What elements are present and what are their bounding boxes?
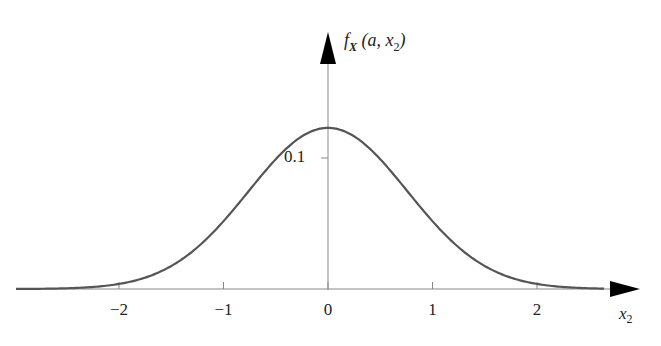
- x-ticks: [119, 282, 537, 289]
- y-tick-label: 0.1: [284, 147, 305, 167]
- y-label-close: ): [400, 30, 406, 50]
- y-axis-arrow-icon: [320, 32, 336, 64]
- x-axis-arrow-icon: [610, 281, 640, 297]
- y-axis-label: fX (a, x2): [344, 30, 406, 55]
- density-curve: [16, 128, 604, 289]
- x-tick-label: 0: [308, 300, 348, 320]
- x-axis-label: x2: [619, 304, 633, 327]
- x-label-main: x: [619, 304, 627, 323]
- y-label-args: (a, x: [357, 30, 393, 50]
- density-chart: [0, 0, 661, 346]
- x-tick-label: 2: [517, 300, 557, 320]
- y-label-sub: X: [349, 40, 357, 54]
- x-tick-label: 1: [413, 300, 453, 320]
- x-label-sub: 2: [627, 312, 633, 326]
- x-tick-label: −1: [204, 300, 244, 320]
- x-tick-label: −2: [99, 300, 139, 320]
